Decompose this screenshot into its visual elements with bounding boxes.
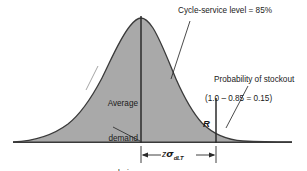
stockout-label-line-2: (1.0 – 0.85 = 0.15): [205, 94, 294, 104]
dimension-arrowhead-left: [142, 152, 149, 157]
normal-distribution-figure: Cycle-service level = 85% Probability of…: [0, 0, 307, 171]
probability-of-stockout-label: Probability of stockout (1.0 – 0.85 = 0.…: [205, 65, 294, 123]
dimension-arrowhead-right: [209, 152, 216, 157]
average-demand-label: Average demand during lead time: [76, 75, 138, 171]
average-demand-line-2: demand: [76, 133, 138, 145]
sigma-subscript: dLT: [174, 155, 184, 161]
cycle-service-level-label: Cycle-service level = 85%: [178, 6, 272, 16]
reorder-point-label: R: [203, 118, 210, 129]
average-demand-line-1: Average: [76, 98, 138, 110]
average-demand-line-3: during: [76, 168, 138, 171]
z-sigma-dlt-label: zσdLT: [162, 148, 183, 162]
stockout-label-line-1: Probability of stockout: [214, 75, 294, 84]
sigma-symbol: σ: [166, 148, 173, 159]
cycle-service-leader-line: [171, 21, 190, 79]
